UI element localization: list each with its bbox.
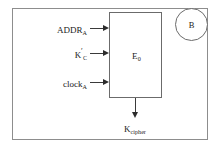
input-label-kc-prime-subscript: C	[83, 55, 87, 61]
entity-circle-b-label: B	[189, 20, 195, 30]
process-block-e0-base: E	[132, 51, 138, 61]
process-block-e0-label: E0	[110, 51, 163, 61]
input-label-addr-a-base: ADDR	[57, 25, 83, 35]
process-block-e0: E0	[109, 12, 162, 98]
input-label-addr-a-subscript: A	[83, 30, 87, 36]
input-label-kc-prime: K′C	[0, 48, 87, 60]
input-label-addr-a: ADDRA	[0, 23, 87, 35]
block-diagram-canvas: ADDRA K′C clockA E0 B Kcipher	[0, 0, 222, 151]
process-block-e0-subscript: 0	[138, 56, 141, 62]
input-label-clock-a-subscript: A	[83, 84, 87, 90]
entity-circle-b: B	[175, 8, 208, 41]
output-label-k-cipher-subscript: cipher	[131, 129, 146, 135]
output-label-k-cipher-base: K	[124, 124, 131, 134]
output-arrowhead-k-cipher	[132, 112, 138, 118]
input-label-clock-a: clockA	[0, 77, 87, 89]
output-label-k-cipher: Kcipher	[95, 121, 175, 134]
input-label-clock-a-base: clock	[63, 79, 83, 89]
